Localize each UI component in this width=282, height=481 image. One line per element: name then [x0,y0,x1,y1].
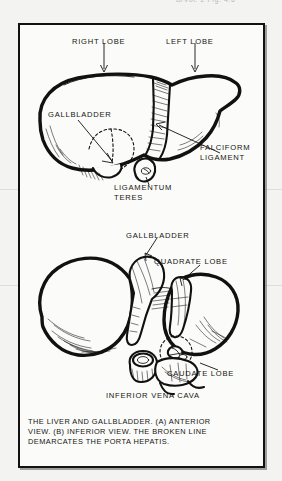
label-quadrate-lobe: QUADRATE LOBE [154,257,228,267]
label-ligamentum-teres-line1: LIGAMENTUM [114,183,172,193]
scanned-page-background: B/Vol. 2 Fig. 4.6 .ink{fill:none;stroke:… [0,0,282,481]
inferior-liver-group [40,257,238,356]
label-falciform-ligament-line2: LIGAMENT [200,153,245,163]
clipped-header-text: B/Vol. 2 Fig. 4.6 [176,0,280,7]
caption-line-1: THE LIVER AND GALLBLADDER. (A) ANTERIOR [28,417,260,427]
label-right-lobe: RIGHT LOBE [72,37,125,47]
anterior-liver-group [40,74,240,181]
label-inferior-vena-cava: INFERIOR VENA CAVA [106,391,200,401]
clipped-header-label: B/Vol. 2 Fig. 4.6 [176,0,280,3]
label-gallbladder-anterior: GALLBLADDER [48,110,112,120]
figure-frame: .ink{fill:none;stroke:#111;stroke-lineca… [18,23,265,468]
label-left-lobe: LEFT LOBE [166,37,214,47]
label-gallbladder-inferior: GALLBLADDER [126,231,190,241]
label-falciform-ligament-line1: FALCIFORM [200,143,250,153]
caption-line-3: DEMARCATES THE PORTA HEPATIS. [28,437,260,447]
label-ligamentum-teres-line2: TERES [114,193,143,203]
figure-caption: THE LIVER AND GALLBLADDER. (A) ANTERIOR … [28,417,260,448]
label-caudate-lobe: CAUDATE LOBE [167,369,234,379]
caption-line-2: VIEW. (B) INFERIOR VIEW. THE BROKEN LINE [28,427,260,437]
